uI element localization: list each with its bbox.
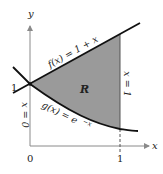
- boundary-x-1-label: x = 1: [122, 71, 133, 96]
- x-tick-0: 0: [27, 153, 33, 164]
- y-tick-1: 1: [11, 82, 17, 93]
- x-axis-label: x: [152, 140, 158, 151]
- intersection-point: [28, 82, 32, 86]
- area-between-curves-diagram: y x 0 1 1 f(x) = 1 + x g(x) = e −x R x =…: [0, 0, 163, 174]
- x-tick-1: 1: [117, 153, 123, 164]
- region-label: R: [79, 83, 89, 96]
- boundary-x-0-label: x = 0: [20, 102, 31, 127]
- y-axis-label: y: [27, 8, 34, 19]
